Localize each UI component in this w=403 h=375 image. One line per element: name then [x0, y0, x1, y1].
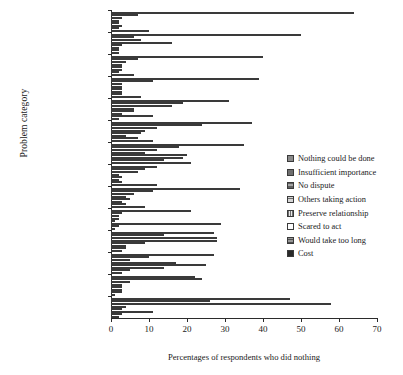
legend-item: Preserve relationship [287, 206, 403, 220]
legend-label: Scared to act [298, 222, 341, 231]
legend-label: Others taking action [298, 195, 366, 204]
legend-swatch-icon [287, 237, 294, 244]
category-group: Personal injury [111, 274, 377, 296]
category-group: Divorce [111, 296, 377, 318]
legend-label: Cost [298, 249, 313, 258]
bar [111, 34, 301, 36]
legend-swatch-icon [287, 196, 294, 203]
x-axis-tick [377, 318, 378, 322]
x-axis-tick [339, 318, 340, 322]
bar [111, 12, 354, 14]
category-group: Housing (rent) [111, 54, 377, 76]
category-group: Clinical negligence [111, 120, 377, 142]
x-axis-tick-label: 10 [136, 324, 162, 334]
legend-swatch-icon [287, 169, 294, 176]
x-axis-tick [187, 318, 188, 322]
category-group: Mental health [111, 10, 377, 32]
bar [111, 316, 119, 318]
bar [111, 223, 221, 225]
x-axis-tick-label: 30 [212, 324, 238, 334]
bar-chart: Problem category Percentages of responde… [0, 0, 403, 375]
x-axis-tick [301, 318, 302, 322]
legend-label: Preserve relationship [298, 209, 368, 218]
legend-swatch-icon [287, 223, 294, 230]
legend-label: Nothing could be done [298, 154, 375, 163]
x-axis-tick [225, 318, 226, 322]
legend-item: Would take too long [287, 234, 403, 248]
legend-swatch-icon [287, 250, 294, 257]
legend-label: No dispute [298, 181, 335, 190]
legend-item: Insufficient importance [287, 166, 403, 180]
x-axis-tick-label: 40 [250, 324, 276, 334]
legend-item: Scared to act [287, 220, 403, 234]
category-group: Discrimination [111, 32, 377, 54]
legend-item: Others taking action [287, 193, 403, 207]
x-axis-line [111, 318, 378, 319]
x-axis-tick-label: 60 [326, 324, 352, 334]
legend-swatch-icon [287, 210, 294, 217]
legend-item: Nothing could be done [287, 152, 403, 166]
legend-label: Would take too long [298, 236, 366, 245]
x-axis-tick-label: 20 [174, 324, 200, 334]
legend: Nothing could be doneInsufficient import… [287, 152, 403, 261]
y-axis-title: Problem category [19, 63, 29, 183]
x-axis-tick-label: 0 [98, 324, 124, 334]
x-axis-tick-label: 70 [364, 324, 390, 334]
x-axis-title: Percentages of respondents who did nothi… [111, 352, 377, 362]
x-axis-tick [263, 318, 264, 322]
bar [111, 210, 191, 212]
legend-label: Insufficient importance [298, 168, 376, 177]
legend-swatch-icon [287, 155, 294, 162]
legend-swatch-icon [287, 182, 294, 189]
x-axis-tick [149, 318, 150, 322]
x-axis-tick [111, 318, 112, 322]
category-group: Welfare benefits [111, 76, 377, 98]
category-group: Employment [111, 98, 377, 120]
bar [111, 303, 331, 305]
legend-item: No dispute [287, 179, 403, 193]
x-axis-tick-label: 50 [288, 324, 314, 334]
legend-item: Cost [287, 247, 403, 261]
